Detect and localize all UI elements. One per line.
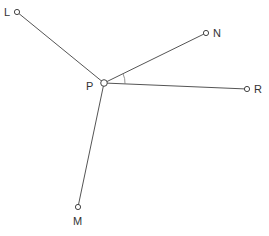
angle-NPR-arc [123,74,125,84]
point-N [203,30,208,35]
label-N: N [213,27,221,39]
point-M [75,204,80,209]
segment-PR [104,83,247,89]
geometry-diagram: P L N R M [0,0,269,236]
segment-PN [104,33,206,83]
point-P [101,80,108,87]
label-R: R [254,83,262,95]
segment-PM [78,83,104,207]
segment-PL [17,12,104,83]
label-M: M [73,215,82,227]
label-P: P [86,80,93,92]
point-R [244,86,249,91]
label-L: L [4,6,10,18]
point-L [14,9,19,14]
